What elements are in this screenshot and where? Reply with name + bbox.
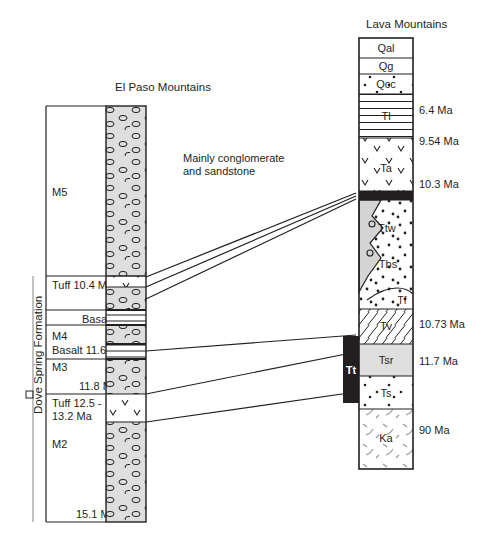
unit-label-tbs: Tbs [379, 258, 398, 270]
lava-mountains-column: Qal Qg Qcc Tl Ta Ttw Tbs Tf Tv Tsr Ts Tt… [343, 38, 413, 469]
lith-basalt-11-6 [106, 344, 146, 359]
unit-label-ka: Ka [379, 432, 393, 444]
unit-label-tv: Tv [380, 320, 393, 332]
formation-marker-square [26, 391, 33, 398]
unit-label-tsr: Tsr [379, 354, 394, 366]
unit-black-band-10-3 [359, 191, 413, 200]
unit-label-qcc: Qcc [376, 78, 396, 90]
lith-tuff-12-5-13-2 [106, 394, 146, 422]
unit-label-ta: Ta [380, 162, 393, 174]
unit-label-tt: Tt [346, 364, 357, 376]
unit-label-qg: Qg [379, 60, 394, 72]
tie-line-118 [146, 352, 356, 394]
unit-label-qal: Qal [377, 42, 394, 54]
unit-label-ts: Ts [381, 387, 393, 399]
figure-canvas: Lava Mountains El Paso Mountains Dove Sp… [0, 0, 493, 557]
tie-line-tuff-104-lower [146, 196, 356, 287]
lith-m5-conglomerate [106, 106, 146, 276]
tie-line-tuff-125 [146, 392, 356, 422]
lith-basalt-upper [106, 310, 146, 325]
unit-label-ttw: Ttw [378, 222, 396, 234]
lith-tuff-10-4 [106, 276, 146, 287]
correlation-lines [146, 193, 356, 422]
tie-line-basalt-116 [146, 335, 356, 351]
lith-m2-conglomerate [106, 422, 146, 522]
stratigraphic-columns-svg: Qal Qg Qcc Tl Ta Ttw Tbs Tf Tv Tsr Ts Tt… [0, 0, 493, 557]
tie-line-tuff-104-upper [146, 193, 356, 277]
el-paso-mountains-column [26, 106, 146, 522]
tie-line-basalt [146, 199, 356, 299]
lith-m4-conglomerate [106, 325, 146, 344]
lith-conglomerate-upper-m4 [106, 287, 146, 310]
unit-label-tf: Tf [398, 295, 407, 306]
lith-m3-conglomerate [106, 359, 146, 394]
unit-label-tl: Tl [381, 110, 390, 122]
left-textbox-outline [46, 106, 106, 522]
